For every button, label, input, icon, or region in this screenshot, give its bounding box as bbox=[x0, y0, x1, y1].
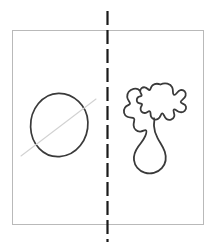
circle-shape bbox=[31, 93, 88, 156]
figure-svg bbox=[0, 0, 214, 249]
figure-canvas bbox=[0, 0, 214, 249]
irregular-blob-shape bbox=[124, 83, 186, 173]
faint-diagonal-line bbox=[21, 99, 96, 156]
